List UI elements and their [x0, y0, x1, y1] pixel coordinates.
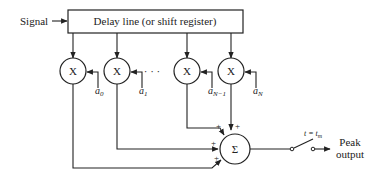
multiply-icon: X: [227, 65, 235, 77]
sum-input-1: [117, 84, 218, 149]
output-label-line2: output: [336, 148, 364, 160]
switch-contact-left: [290, 147, 294, 151]
multiply-icon: X: [183, 65, 191, 77]
signal-input-label: Signal: [20, 15, 48, 27]
multiplier-0: X: [60, 58, 86, 84]
switch-contact-right: [311, 147, 315, 151]
coef-label-n-1: aN−1: [208, 85, 226, 98]
plus-sign: +: [235, 121, 240, 131]
output-label-line1: Peak: [339, 136, 361, 148]
switch-blade: [294, 139, 313, 148]
multiply-icon: X: [113, 65, 121, 77]
multiply-icon: X: [69, 65, 77, 77]
coef-label-0: a0: [95, 85, 104, 98]
plus-sign: +: [214, 153, 219, 163]
coef-label-1: a1: [139, 85, 148, 98]
sigma-icon: Σ: [232, 143, 238, 155]
multiplier-n-1: X: [174, 58, 200, 84]
plus-sign: +: [211, 138, 216, 148]
matched-filter-diagram: Signal Delay line (or shift register) X …: [0, 0, 373, 178]
plus-sign: +: [216, 121, 221, 131]
multiplier-1: X: [104, 58, 130, 84]
coef-label-n: aN: [253, 85, 263, 98]
multiplier-n: X: [218, 58, 244, 84]
delay-line-label: Delay line (or shift register): [94, 15, 217, 28]
switch-label: t = tm: [304, 129, 323, 139]
ellipsis: · · ·: [144, 65, 161, 77]
summer: Σ: [220, 134, 250, 164]
